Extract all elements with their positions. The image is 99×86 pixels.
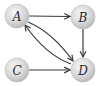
- node-d-label: D: [77, 64, 88, 78]
- node-c-label: C: [12, 64, 21, 78]
- node-d: D: [71, 58, 95, 82]
- node-b-label: B: [78, 11, 88, 25]
- graph-diagram: A B C D: [0, 0, 99, 86]
- node-a-label: A: [12, 10, 22, 24]
- node-a: A: [5, 4, 29, 28]
- node-c: C: [5, 58, 29, 82]
- edge-d-to-a: [25, 25, 71, 64]
- node-b: B: [71, 5, 95, 29]
- edge-a-to-b: [29, 16, 70, 17]
- edge-a-to-d: [28, 22, 73, 61]
